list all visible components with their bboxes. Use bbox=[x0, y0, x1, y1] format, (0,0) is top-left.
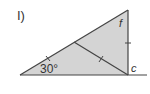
problem-label: I) bbox=[17, 9, 25, 22]
variable-label-f: f bbox=[119, 18, 122, 29]
angle-label-30: 30° bbox=[40, 63, 58, 75]
variable-label-c: c bbox=[131, 63, 137, 74]
geometry-figure: I) 30° f c bbox=[0, 0, 150, 94]
